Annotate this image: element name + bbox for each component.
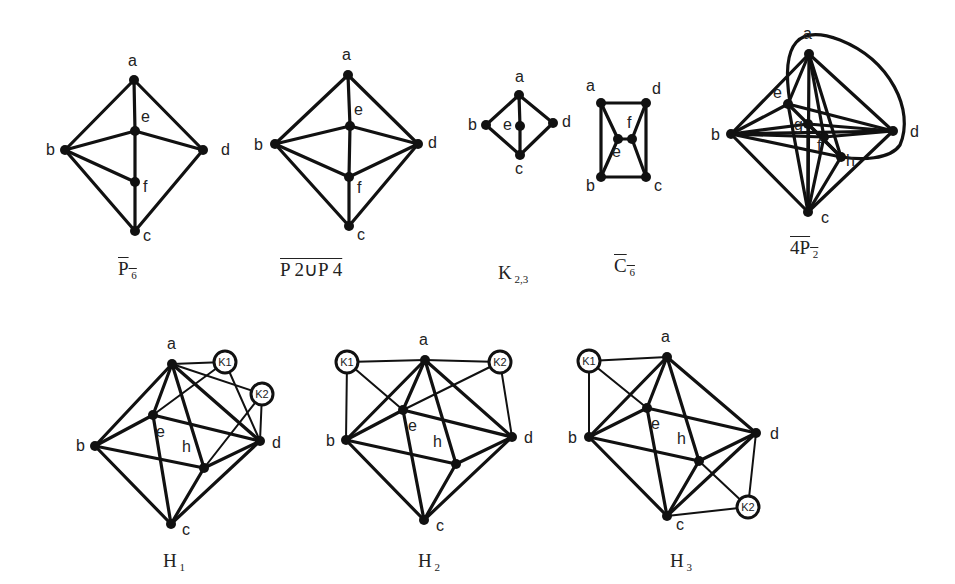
- edge-b-c: [65, 150, 135, 231]
- vertex-h: [694, 456, 704, 466]
- vertex-label-b: b: [254, 136, 263, 153]
- vertex-a: [343, 70, 353, 80]
- vertex-d: [255, 436, 265, 446]
- vertex-label-e: e: [651, 415, 660, 432]
- vertex-b: [60, 145, 70, 155]
- vertex-c: [130, 226, 140, 236]
- vertex-label-c: c: [515, 160, 523, 177]
- vertex-f: [130, 177, 140, 187]
- clique-label: K1: [582, 355, 595, 367]
- vertex-a: [514, 90, 524, 100]
- graph-p6-complement: abdefc: [46, 52, 230, 244]
- edge-h-c: [424, 464, 456, 520]
- caption-main: 4P: [790, 237, 810, 258]
- caption-subscript: 3: [684, 561, 692, 573]
- graph-c6-complement: adefbc: [586, 77, 662, 194]
- vertex-d: [548, 118, 558, 128]
- edge-f-d: [632, 103, 646, 139]
- vertex-label-b: b: [711, 126, 720, 143]
- edge-f-d: [349, 144, 418, 177]
- edge-e-f: [349, 126, 350, 177]
- vertex-c: [344, 221, 354, 231]
- vertex-label-d: d: [770, 425, 779, 442]
- caption-main: K: [498, 262, 512, 283]
- vertex-e: [130, 126, 140, 136]
- vertex-label-f: f: [143, 178, 148, 195]
- vertex-label-c: c: [357, 226, 365, 243]
- vertex-label-c: c: [182, 521, 190, 538]
- vertex-label-b: b: [46, 141, 55, 158]
- clique-label: K2: [493, 356, 506, 368]
- vertex-label-f: f: [357, 179, 362, 196]
- vertex-label-a: a: [419, 331, 428, 348]
- vertex-label-a: a: [128, 52, 137, 69]
- vertex-e: [642, 403, 652, 413]
- vertex-h: [199, 463, 209, 473]
- vertex-a: [420, 355, 430, 365]
- vertex-d: [888, 126, 898, 136]
- vertex-c: [419, 515, 429, 525]
- vertex-b: [726, 129, 736, 139]
- graph-p2-union-p4-complement: abdefc: [254, 46, 437, 243]
- vertex-label-h: h: [846, 152, 855, 169]
- vertex-label-d: d: [272, 434, 281, 451]
- vertex-label-c: c: [654, 177, 662, 194]
- vertex-label-h: h: [677, 430, 686, 447]
- graph-h2: K1K2abehdc: [326, 331, 533, 534]
- graph-caption-k23: K 2,3: [498, 262, 528, 285]
- vertex-b: [481, 120, 491, 130]
- graph-caption-h2: H 2: [418, 550, 440, 573]
- graph-h1: K1K2abehdc: [76, 335, 281, 538]
- vertex-label-b: b: [468, 116, 477, 133]
- vertex-label-c: c: [143, 227, 151, 244]
- caption-subscript: 2,3: [512, 273, 529, 285]
- graph-caption-p2-union-p4-complement: P 2∪P 4: [280, 258, 342, 281]
- vertex-label-c: c: [676, 516, 684, 533]
- vertex-f: [627, 134, 637, 144]
- vertex-c: [641, 172, 651, 182]
- graph-k23: abedc: [468, 68, 571, 177]
- caption-subscript: 1: [177, 561, 185, 573]
- caption-main: P: [118, 258, 129, 279]
- vertex-c: [166, 519, 176, 529]
- vertex-label-e: e: [503, 116, 512, 133]
- vertex-label-d: d: [221, 141, 230, 158]
- graph-caption-c6-complement: C 6: [614, 255, 635, 278]
- edge-b-e: [589, 408, 647, 437]
- edge-h-d: [456, 437, 512, 464]
- caption-subscript: 2: [810, 248, 818, 260]
- vertex-d: [198, 145, 208, 155]
- vertex-label-h: h: [182, 438, 191, 455]
- vertex-a: [167, 359, 177, 369]
- clique-label: K2: [255, 388, 268, 400]
- vertex-label-h: h: [433, 433, 442, 450]
- graph-caption-h3: H 3: [670, 550, 692, 573]
- vertex-label-c: c: [436, 517, 444, 534]
- vertex-b: [584, 432, 594, 442]
- vertex-label-e: e: [408, 417, 417, 434]
- caption-main: C: [614, 255, 627, 276]
- vertex-label-b: b: [76, 437, 85, 454]
- vertex-label-c: c: [821, 209, 829, 226]
- caption-subscript: 2: [432, 561, 440, 573]
- vertex-a: [129, 75, 139, 85]
- edge-d-c: [520, 123, 553, 155]
- vertex-label-b: b: [326, 432, 335, 449]
- vertex-d: [413, 139, 423, 149]
- vertex-label-e: e: [141, 108, 150, 125]
- vertex-a: [662, 352, 672, 362]
- graph-h3: K1K2abehdc: [568, 328, 779, 533]
- vertex-label-d: d: [910, 123, 919, 140]
- edge-a-e: [601, 103, 618, 139]
- edge-a-e: [788, 54, 809, 104]
- caption-main: P 2∪P 4: [280, 259, 342, 280]
- vertex-b: [90, 441, 100, 451]
- edge-a-e: [403, 360, 425, 410]
- clique-label: K1: [340, 356, 353, 368]
- graph-4p2-complement: abegfhdc: [711, 25, 919, 226]
- edge-b-f: [65, 150, 135, 182]
- vertex-label-a: a: [803, 25, 812, 42]
- vertex-h: [451, 459, 461, 469]
- vertex-label-a: a: [661, 328, 670, 345]
- edge-f-c: [632, 139, 646, 177]
